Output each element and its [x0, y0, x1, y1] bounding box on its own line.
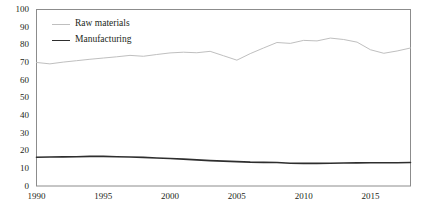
y-tick-label: 20	[7, 146, 29, 155]
y-tick-label: 80	[7, 40, 29, 49]
legend-label-manufacturing: Manufacturing	[75, 35, 131, 45]
x-tick-label: 2010	[284, 192, 324, 201]
line-chart-plot	[0, 0, 425, 212]
legend-item-manufacturing: Manufacturing	[52, 33, 131, 47]
x-tick-label: 1990	[17, 192, 57, 201]
legend-line-swatch-icon	[52, 40, 70, 41]
y-tick-label: 30	[7, 129, 29, 138]
legend-item-raw-materials: Raw materials	[52, 17, 130, 31]
y-tick-label: 0	[7, 182, 29, 191]
chart-figure: 0102030405060708090100 19901995200020052…	[0, 0, 425, 212]
x-tick-label: 2005	[217, 192, 257, 201]
series-line-manufacturing	[37, 156, 411, 163]
y-tick-label: 60	[7, 76, 29, 85]
x-tick-label: 2000	[150, 192, 190, 201]
y-tick-label: 50	[7, 93, 29, 102]
legend-line-swatch-icon	[52, 24, 70, 25]
y-tick-label: 100	[7, 5, 29, 14]
y-tick-label: 40	[7, 111, 29, 120]
y-tick-label: 70	[7, 58, 29, 67]
legend-label-raw-materials: Raw materials	[75, 19, 130, 29]
y-tick-label: 10	[7, 164, 29, 173]
x-tick-label: 1995	[83, 192, 123, 201]
y-tick-label: 90	[7, 23, 29, 32]
x-tick-label: 2015	[350, 192, 390, 201]
